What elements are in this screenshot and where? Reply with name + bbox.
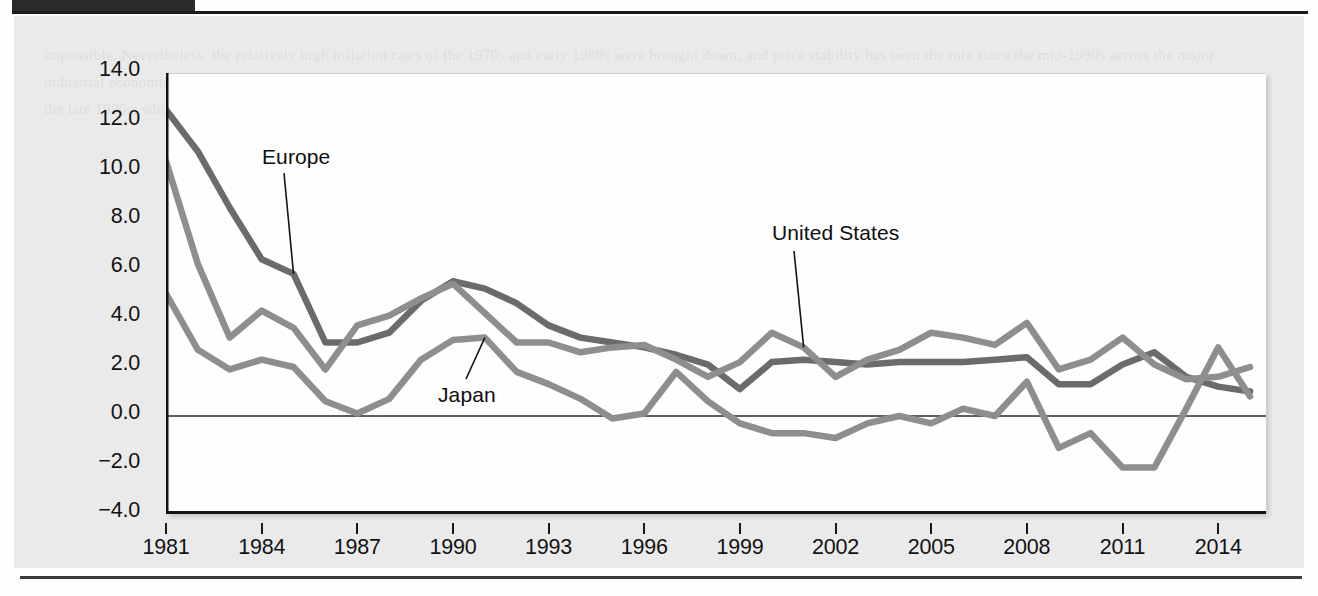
x-tick bbox=[1122, 523, 1124, 534]
x-tick-label: 1990 bbox=[408, 535, 498, 560]
x-tick-label: 1993 bbox=[504, 535, 594, 560]
europe-label: Europe bbox=[262, 145, 330, 169]
x-tick-label: 1987 bbox=[312, 535, 402, 560]
x-tick bbox=[643, 523, 645, 534]
x-tick bbox=[261, 523, 263, 534]
textbook-page: impossible. Nevertheless, the relatively… bbox=[0, 0, 1318, 596]
x-tick bbox=[930, 523, 932, 534]
x-tick-label: 2011 bbox=[1078, 535, 1168, 560]
y-tick-label: −4.0 bbox=[64, 498, 140, 523]
x-tick-label: 2008 bbox=[982, 535, 1072, 560]
plot-svg bbox=[166, 73, 1266, 514]
x-tick bbox=[1026, 523, 1028, 534]
series-line-united-states bbox=[166, 161, 1250, 379]
annotation-leader-japan bbox=[466, 338, 485, 379]
x-tick-label: 2014 bbox=[1173, 535, 1263, 560]
y-tick-label: 4.0 bbox=[64, 302, 140, 327]
chart: Annual Inflation (Percentage) 14.012.010… bbox=[152, 71, 1268, 531]
y-tick-label: 2.0 bbox=[64, 351, 140, 376]
x-tick bbox=[452, 523, 454, 534]
y-axis-tick-labels: 14.012.010.08.06.04.02.00.0−2.0−4.0 bbox=[60, 71, 140, 512]
y-tick-label: 6.0 bbox=[64, 253, 140, 278]
x-tick-label: 2005 bbox=[886, 535, 976, 560]
x-tick bbox=[739, 523, 741, 534]
annotation-leader-europe bbox=[284, 173, 294, 274]
x-tick bbox=[548, 523, 550, 534]
x-tick-label: 1999 bbox=[695, 535, 785, 560]
x-tick bbox=[356, 523, 358, 534]
series-line-japan bbox=[166, 294, 1250, 468]
x-tick bbox=[835, 523, 837, 534]
figure-panel: impossible. Nevertheless, the relatively… bbox=[14, 16, 1304, 568]
x-tick bbox=[165, 523, 167, 534]
x-tick-label: 1981 bbox=[121, 535, 211, 560]
y-tick-label: 14.0 bbox=[64, 57, 140, 82]
x-tick-label: 1996 bbox=[599, 535, 689, 560]
y-tick-label: −2.0 bbox=[64, 449, 140, 474]
y-tick-label: 10.0 bbox=[64, 155, 140, 180]
page-top-rule bbox=[12, 11, 1308, 14]
x-axis-tick-labels: 1981198419871990199319961999200220052008… bbox=[166, 523, 1266, 557]
x-tick-label: 2002 bbox=[791, 535, 881, 560]
united-states-label: United States bbox=[772, 221, 899, 245]
y-tick-label: 8.0 bbox=[64, 204, 140, 229]
plot-area: EuropeJapanUnited States bbox=[166, 73, 1266, 514]
x-tick bbox=[1217, 523, 1219, 534]
y-tick-label: 0.0 bbox=[64, 400, 140, 425]
japan-label: Japan bbox=[438, 383, 496, 407]
annotation-leader-united-states bbox=[794, 251, 804, 347]
x-tick-label: 1984 bbox=[217, 535, 307, 560]
y-tick-label: 12.0 bbox=[64, 106, 140, 131]
page-bottom-rule bbox=[20, 576, 1302, 579]
